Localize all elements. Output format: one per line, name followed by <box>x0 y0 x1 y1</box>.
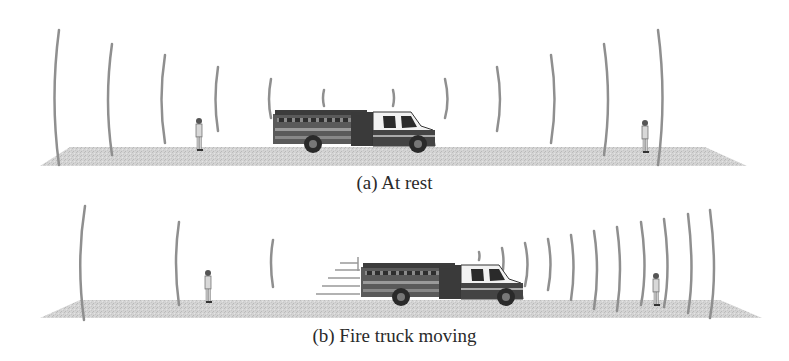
observer-left-b <box>205 270 212 303</box>
panel-b <box>40 206 762 320</box>
observer-left-a <box>196 118 203 151</box>
panel-a <box>40 30 747 166</box>
caption-b: (b) Fire truck moving <box>0 325 789 347</box>
fire-truck-at-rest <box>273 110 435 153</box>
motion-lines <box>316 257 360 294</box>
fire-truck-moving <box>361 263 523 306</box>
ground-a <box>40 147 747 166</box>
caption-a: (a) At rest <box>0 172 789 194</box>
